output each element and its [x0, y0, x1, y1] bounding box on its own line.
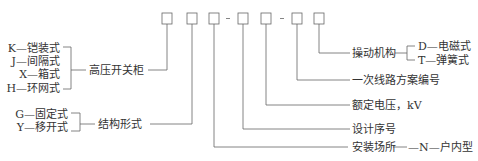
- cabinet-type-label: 高压开关柜: [89, 64, 144, 77]
- primary-circuit-label: 一次线路方案编号: [352, 74, 440, 87]
- code-box-1: [162, 13, 172, 24]
- operating-mechanism-label: 操动机构: [352, 47, 396, 60]
- cabinet-type-option-k: K—铠装式: [6, 42, 60, 55]
- cabinet-type-option-h: H—环网式: [6, 82, 60, 95]
- code-box-5: [261, 13, 271, 24]
- cabinet-type-option-x: X—箱式: [6, 68, 60, 81]
- code-box-7: [314, 13, 324, 24]
- rated-voltage-label: 额定电压，kV: [352, 99, 422, 112]
- code-box-2: [187, 13, 197, 24]
- code-box-3: [209, 13, 219, 24]
- code-box-4: [238, 13, 248, 24]
- installation-site-label: 安装场所: [352, 141, 396, 154]
- operating-mechanism-option-d: D—电磁式: [418, 40, 471, 53]
- design-serial-label: 设计序号: [352, 123, 396, 136]
- cabinet-type-option-j: J—间隔式: [6, 55, 60, 68]
- installation-site-option: —N—户内型: [408, 141, 473, 154]
- operating-mechanism-option-t: T—弹簧式: [418, 54, 469, 67]
- structure-option-y: Y—移开式: [14, 121, 68, 134]
- code-box-6: [292, 13, 302, 24]
- structure-option-g: G—固定式: [14, 108, 68, 121]
- structure-label: 结构形式: [98, 118, 142, 131]
